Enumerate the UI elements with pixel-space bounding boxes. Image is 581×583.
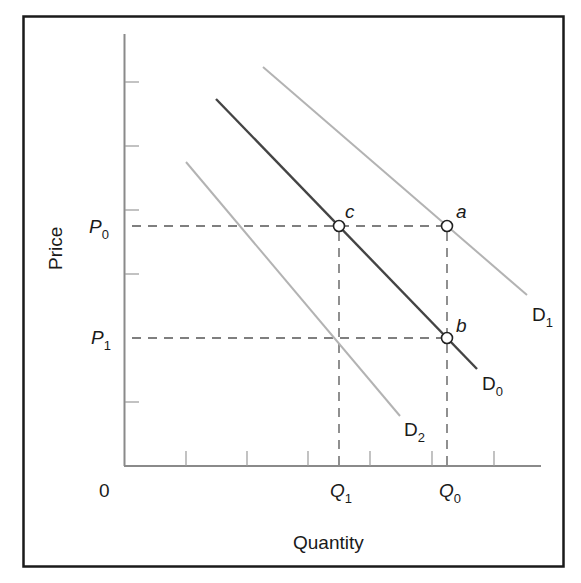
point-a-label: a xyxy=(456,201,467,222)
point-a-marker xyxy=(442,221,453,232)
point-b-marker xyxy=(442,333,453,344)
point-b-label: b xyxy=(456,315,467,336)
origin-label: 0 xyxy=(99,480,110,501)
point-c-label: c xyxy=(345,201,355,222)
y-axis-title: Price xyxy=(45,227,66,270)
x-axis-title: Quantity xyxy=(293,532,364,553)
demand-shift-diagram: a b c D1 D0 D2 P0 P1 Q1 Q0 0 Quantity Pr… xyxy=(0,0,581,583)
point-c-marker xyxy=(334,221,345,232)
